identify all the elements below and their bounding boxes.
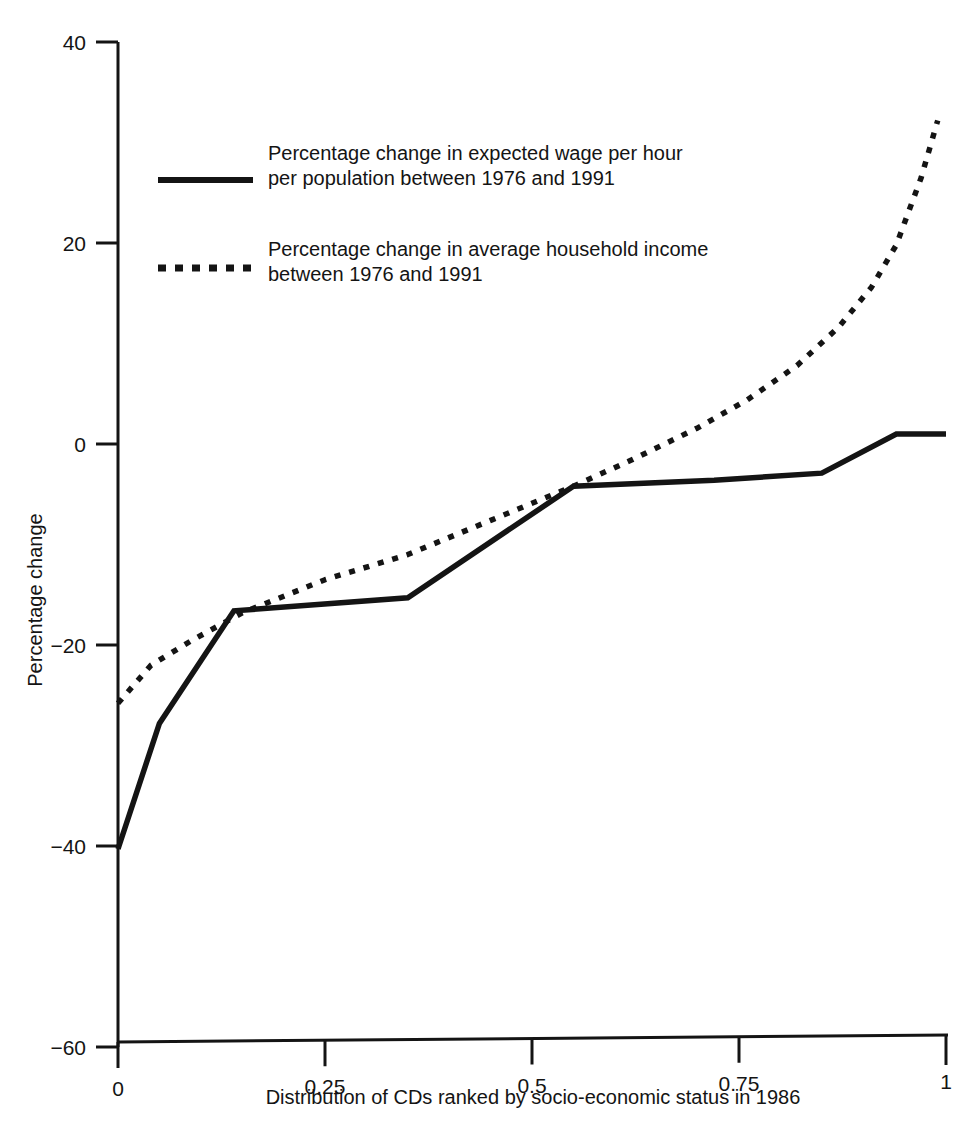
legend-entry-1-line-2: between 1976 and 1991 bbox=[268, 263, 483, 285]
chart-figure: 40200−20−40−60 00.250.50.751 Percentage … bbox=[0, 0, 974, 1125]
x-axis-title: Distribution of CDs ranked by socio-econ… bbox=[266, 1086, 801, 1108]
legend-entry-0-line-1: Percentage change in expected wage per h… bbox=[268, 142, 683, 164]
y-tick-label: 0 bbox=[74, 433, 86, 456]
y-tick-label: −60 bbox=[50, 1036, 86, 1059]
percentage-change-line-chart: 40200−20−40−60 00.250.50.751 Percentage … bbox=[0, 0, 974, 1125]
x-tick-label: 0 bbox=[112, 1077, 124, 1100]
x-tick-label: 1 bbox=[940, 1070, 952, 1093]
y-tick-label: 20 bbox=[63, 232, 86, 255]
y-tick-label: −40 bbox=[50, 835, 86, 858]
legend-entry-0-line-2: per population between 1976 and 1991 bbox=[268, 167, 615, 189]
y-tick-label: 40 bbox=[63, 31, 86, 54]
y-axis-title: Percentage change bbox=[24, 513, 46, 686]
y-tick-label: −20 bbox=[50, 634, 86, 657]
legend-entry-1-line-1: Percentage change in average household i… bbox=[268, 238, 708, 260]
